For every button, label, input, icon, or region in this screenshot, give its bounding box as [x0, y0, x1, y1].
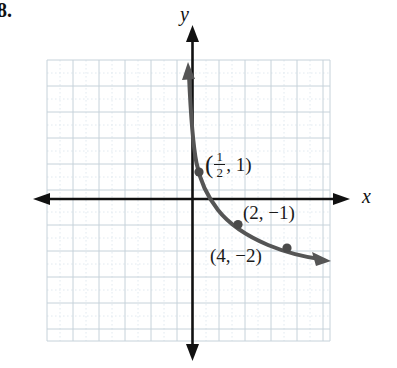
- point-label-half-one: ( 1 2 , 1): [205, 150, 252, 179]
- point-label-remainder: , 1): [226, 155, 251, 174]
- fraction-denominator: 2: [215, 165, 226, 179]
- point-marker-half-one: [194, 167, 203, 176]
- y-axis-label: y: [180, 4, 189, 24]
- graph-figure: 8.: [0, 0, 397, 368]
- point-marker-four-neg-two: [282, 243, 291, 252]
- fraction-numerator: 1: [215, 150, 226, 164]
- fraction-one-half: 1 2: [214, 150, 225, 179]
- open-paren: (: [205, 152, 213, 177]
- point-label-four-neg-two: (4, −2): [210, 246, 262, 266]
- x-axis-label: x: [362, 186, 371, 206]
- point-label-two-neg-one: (2, −1): [243, 203, 295, 223]
- coordinate-plane: [0, 0, 397, 368]
- point-marker-two-neg-one: [233, 220, 242, 229]
